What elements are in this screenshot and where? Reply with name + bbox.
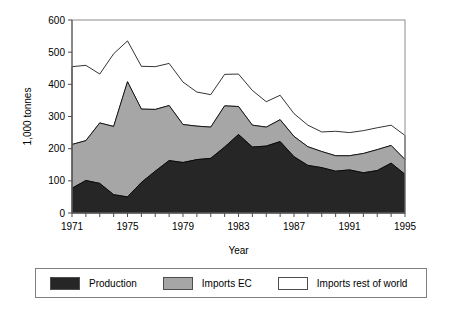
legend-item[interactable]: Imports rest of world xyxy=(278,277,408,290)
plot-area: 0100200300400500600197119751979198319871… xyxy=(0,0,462,262)
stacked-area-chart: 0100200300400500600197119751979198319871… xyxy=(0,0,462,262)
y-tick-label: 600 xyxy=(48,15,65,26)
x-tick-label: 1975 xyxy=(116,221,139,232)
y-tick-label: 300 xyxy=(48,111,65,122)
area-series-group xyxy=(72,41,405,213)
y-tick-label: 400 xyxy=(48,79,65,90)
x-tick-label: 1983 xyxy=(227,221,250,232)
x-axis-title: Year xyxy=(228,245,249,256)
legend-item[interactable]: Production xyxy=(50,277,137,290)
legend-item[interactable]: Imports EC xyxy=(163,277,252,290)
legend-item-label: Imports EC xyxy=(202,278,252,289)
y-tick-label: 0 xyxy=(59,208,65,219)
y-tick-label: 200 xyxy=(48,143,65,154)
x-tick-label: 1979 xyxy=(172,221,195,232)
x-tick-label: 1987 xyxy=(283,221,306,232)
legend-swatch-icon xyxy=(50,277,80,290)
legend-swatch-icon xyxy=(163,277,193,290)
chart-figure: 0100200300400500600197119751979198319871… xyxy=(0,0,462,310)
y-tick-label: 100 xyxy=(48,175,65,186)
legend-swatch-icon xyxy=(278,277,308,290)
x-tick-label: 1971 xyxy=(61,221,84,232)
x-tick-label: 1995 xyxy=(394,221,417,232)
y-axis-title: 1,000 tonnes xyxy=(22,88,33,146)
x-tick-label: 1991 xyxy=(338,221,361,232)
legend-item-label: Imports rest of world xyxy=(317,278,408,289)
legend-item-label: Production xyxy=(89,278,137,289)
chart-legend: ProductionImports ECImports rest of worl… xyxy=(35,268,427,298)
y-tick-label: 500 xyxy=(48,47,65,58)
